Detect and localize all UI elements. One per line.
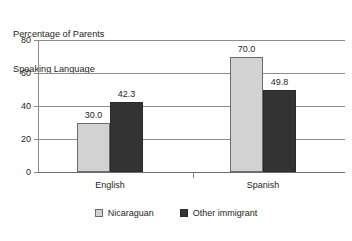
y-tick-label-80: 80	[21, 35, 31, 45]
y-tick-mark-60	[34, 73, 38, 74]
y-tick-label-0: 0	[26, 167, 31, 177]
bar-value-label-english-light: 30.0	[85, 110, 103, 120]
x-axis-mid-tick	[193, 173, 194, 178]
bar-value-label-english-dark: 42.3	[118, 89, 136, 99]
gridline-0	[38, 172, 345, 173]
y-tick-label-20: 20	[21, 134, 31, 144]
x-axis-label-spanish: Spanish	[247, 180, 280, 190]
bar-spanish-light[interactable]	[230, 57, 263, 173]
bar-value-label-spanish-dark: 49.8	[271, 77, 289, 87]
x-axis-label-english: English	[95, 180, 125, 190]
bar-chart: Percentage of Parents Speaking Language …	[0, 0, 352, 241]
plot-area: 020406080 30.042.370.049.8	[38, 40, 345, 172]
legend-label: Other immigrant	[193, 208, 258, 218]
bar-value-label-spanish-light: 70.0	[238, 44, 256, 54]
legend-swatch-icon-dark	[180, 209, 188, 217]
legend-item-nicaraguan[interactable]: Nicaraguan	[95, 208, 154, 218]
y-tick-label-40: 40	[21, 101, 31, 111]
y-tick-mark-20	[34, 139, 38, 140]
legend-swatch-icon-light	[95, 209, 103, 217]
y-tick-mark-40	[34, 106, 38, 107]
gridline-40	[38, 106, 345, 107]
bar-english-light[interactable]	[77, 123, 110, 173]
bar-english-dark[interactable]	[110, 102, 143, 172]
y-tick-label-60: 60	[21, 68, 31, 78]
y-tick-mark-0	[34, 172, 38, 173]
y-tick-mark-80	[34, 40, 38, 41]
chart-legend: NicaraguanOther immigrant	[0, 208, 352, 218]
gridline-80	[38, 40, 345, 41]
gridline-60	[38, 73, 345, 74]
bar-spanish-dark[interactable]	[263, 90, 296, 172]
legend-label: Nicaraguan	[108, 208, 154, 218]
legend-item-other-immigrant[interactable]: Other immigrant	[180, 208, 258, 218]
